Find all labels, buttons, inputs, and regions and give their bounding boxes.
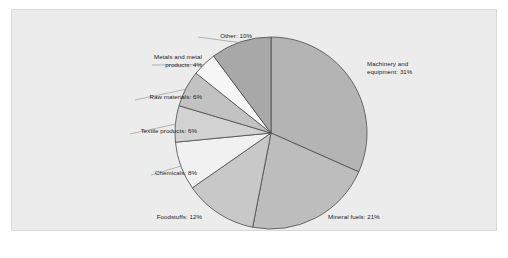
slice-label-machinery-and-equipment: Machinery and equipment: 31% [367, 60, 412, 75]
slice-label-textile-products: Textile products: 6% [32, 127, 197, 135]
slice-label-metals-and-metal-products-line2: products: 4% [67, 61, 202, 69]
slice-label-raw-materials: Raw materials: 6% [37, 93, 202, 101]
slice-label-other: Other: 10% [142, 32, 252, 40]
slice-label-metals-and-metal-products: Metals and metal products: 4% [67, 53, 202, 68]
figure-caption [12, 243, 482, 257]
slice-label-metals-and-metal-products-line1: Metals and metal [67, 53, 202, 61]
pie-chart-panel: Machinery and equipment: 31% Mineral fue… [11, 9, 497, 231]
slice-label-foodstuffs-line1: Foodstuffs: 12% [82, 213, 202, 221]
pie-slice-group [175, 37, 367, 229]
slice-label-foodstuffs: Foodstuffs: 12% [82, 213, 202, 221]
slice-label-other-line1: Other: 10% [142, 32, 252, 40]
slice-label-machinery-and-equipment-line2: equipment: 31% [367, 68, 412, 76]
slice-label-mineral-fuels-line1: Mineral fuels: 21% [328, 213, 380, 221]
slice-label-chemicals-line1: Chemicals: 8% [52, 169, 197, 177]
slice-label-chemicals: Chemicals: 8% [52, 169, 197, 177]
slice-label-textile-products-line1: Textile products: 6% [32, 127, 197, 135]
slice-label-mineral-fuels: Mineral fuels: 21% [328, 213, 380, 221]
slice-label-machinery-and-equipment-line1: Machinery and [367, 60, 412, 68]
figure-container: Machinery and equipment: 31% Mineral fue… [0, 0, 508, 258]
slice-label-raw-materials-line1: Raw materials: 6% [37, 93, 202, 101]
pie-chart-svg [12, 10, 497, 231]
